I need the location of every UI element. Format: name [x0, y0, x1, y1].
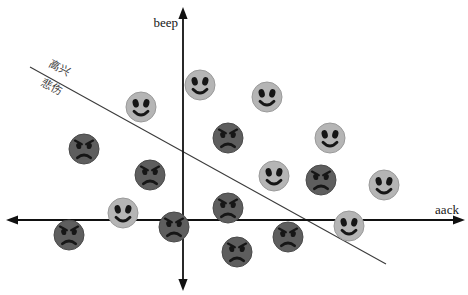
angry-face-marker	[213, 123, 243, 153]
happy-face-marker	[185, 70, 215, 100]
face-circle	[126, 92, 156, 122]
face-circle	[273, 222, 303, 252]
axis-arrowhead	[178, 279, 187, 291]
angry-face-marker	[69, 134, 99, 164]
happy-face-marker	[126, 92, 156, 122]
angry-face-marker	[54, 220, 84, 250]
face-circle	[369, 170, 399, 200]
happy-face-marker	[369, 170, 399, 200]
face-circle	[69, 134, 99, 164]
face-circle	[222, 237, 252, 267]
x-axis-label: aack	[435, 202, 459, 217]
face-circle	[135, 160, 165, 190]
boundary-label-sad: 悲伤	[39, 75, 65, 97]
plot-canvas: beep aack 高兴 悲伤	[0, 0, 468, 295]
face-circle	[259, 161, 289, 191]
angry-face-marker	[306, 165, 336, 195]
angry-face-marker	[273, 222, 303, 252]
y-axis-label: beep	[153, 15, 178, 30]
axis-arrowhead	[178, 7, 187, 19]
face-circle	[185, 70, 215, 100]
boundary-label-happy: 高兴	[47, 56, 73, 78]
happy-face-marker	[334, 211, 364, 241]
face-circle	[252, 82, 282, 112]
emotion-scatter-figure: beep aack 高兴 悲伤	[0, 0, 468, 295]
happy-face-marker	[315, 123, 345, 153]
axis-arrowhead	[6, 215, 18, 224]
face-circle	[213, 193, 243, 223]
face-circle	[334, 211, 364, 241]
happy-face-marker	[259, 161, 289, 191]
face-circle	[108, 198, 138, 228]
angry-face-marker	[222, 237, 252, 267]
face-circle	[159, 212, 189, 242]
face-circle	[306, 165, 336, 195]
happy-face-marker	[252, 82, 282, 112]
angry-face-marker	[213, 193, 243, 223]
happy-face-marker	[108, 198, 138, 228]
angry-face-marker	[135, 160, 165, 190]
face-circle	[54, 220, 84, 250]
angry-face-marker	[159, 212, 189, 242]
face-circle	[315, 123, 345, 153]
face-circle	[213, 123, 243, 153]
data-points-layer	[54, 70, 399, 267]
